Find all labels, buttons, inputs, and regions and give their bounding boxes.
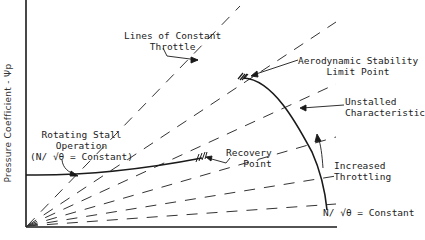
label-speed-constant: N/ √θ = Constant — [323, 207, 415, 218]
label-stability-limit: Aerodynamic Stability Limit Point — [298, 55, 418, 77]
label-recovery-point: Recovery Point — [226, 147, 272, 169]
label-increased-throttling: Increased Throttling — [334, 160, 391, 182]
unstalled-characteristic-curve — [244, 78, 327, 210]
label-rotating-stall: Rotating Stall Operation (N/ √θ = Consta… — [30, 129, 133, 162]
label-unstalled: Unstalled Characteristic — [345, 96, 425, 118]
y-axis-label: Pressure Coefficient - Ψp — [3, 63, 13, 183]
label-constant-throttle: Lines of Constant Throttle — [124, 30, 221, 52]
